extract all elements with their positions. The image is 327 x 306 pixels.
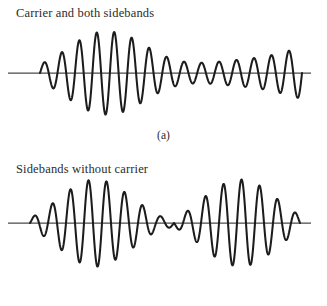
am-waveform-figure: Carrier and both sidebands (a) Sidebands… <box>0 0 327 306</box>
panel-b: Sidebands without carrier (b) <box>0 156 327 306</box>
panel-a-label: (a) <box>0 129 327 141</box>
waveform-b-plot <box>0 156 327 306</box>
panel-a: Carrier and both sidebands (a) <box>0 0 327 156</box>
